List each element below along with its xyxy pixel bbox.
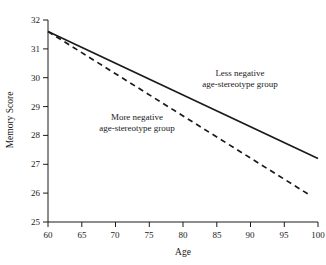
x-tick-label-95: 95: [280, 231, 289, 240]
series-annotation-less-negative: Less negative age-stereotype group: [202, 68, 278, 90]
x-tick-label-60: 60: [44, 231, 53, 240]
y-tick-label-31: 31: [18, 45, 40, 54]
x-tick-label-65: 65: [78, 231, 87, 240]
annotation-less-negative-line1: Less negative: [202, 68, 278, 79]
x-tick-label-85: 85: [213, 231, 222, 240]
y-tick-label-32: 32: [18, 16, 40, 25]
x-tick-label-70: 70: [111, 231, 120, 240]
x-tick-label-90: 90: [246, 231, 255, 240]
series-annotation-more-negative: More negative age-stereotype group: [99, 112, 175, 134]
annotation-more-negative-line1: More negative: [99, 112, 175, 123]
x-tick-label-100: 100: [311, 231, 325, 240]
series-line-less-negative: [48, 32, 318, 159]
annotation-less-negative-line2: age-stereotype group: [202, 79, 278, 90]
y-axis-title: Memory Score: [6, 92, 16, 149]
x-tick-label-80: 80: [179, 231, 188, 240]
x-tick-label-75: 75: [145, 231, 154, 240]
y-tick-label-26: 26: [18, 189, 40, 198]
y-axis-ticks: [43, 20, 48, 222]
y-tick-label-25: 25: [18, 218, 40, 227]
x-axis-ticks: [48, 222, 318, 227]
annotation-more-negative-line2: age-stereotype group: [99, 123, 175, 134]
memory-score-by-age-chart: 25 26 27 28 29 30 31 32 60 65 70 75 80 8…: [0, 0, 326, 265]
y-tick-label-27: 27: [18, 160, 40, 169]
y-tick-label-28: 28: [18, 131, 40, 140]
y-tick-label-29: 29: [18, 103, 40, 112]
x-axis-title: Age: [175, 248, 191, 258]
y-tick-label-30: 30: [18, 74, 40, 83]
series-line-more-negative: [48, 32, 311, 196]
